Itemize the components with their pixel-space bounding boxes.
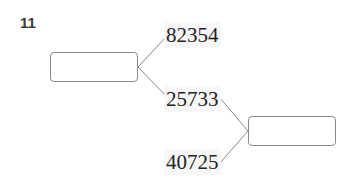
- number-82354: 82354: [164, 22, 221, 48]
- right-answer-box[interactable]: [248, 116, 336, 146]
- left-answer-box[interactable]: [50, 52, 138, 82]
- number-25733: 25733: [164, 86, 221, 112]
- number-40725: 40725: [164, 149, 221, 175]
